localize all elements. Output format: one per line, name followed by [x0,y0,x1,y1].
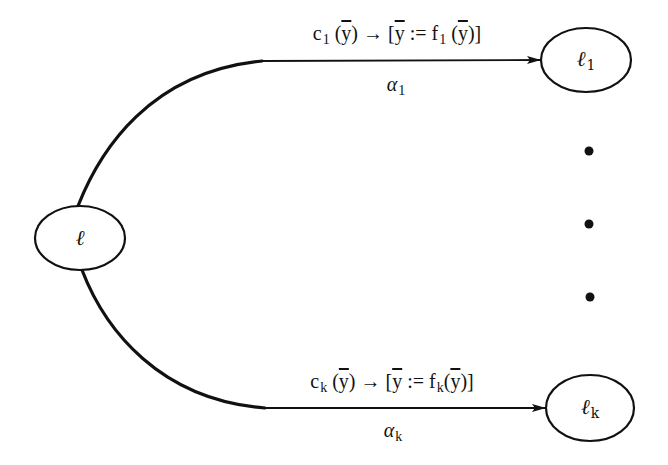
assign-close: ] [467,370,474,392]
assign-op: := [402,370,429,392]
assign-close: ] [475,22,482,44]
action-symbol: α [384,419,395,441]
node-l-symbol: ℓ [76,226,85,250]
guard-condition-subscript: k [320,380,327,395]
assign-arg: y [458,22,468,44]
assign-arg: y [450,370,460,392]
implies-arrow: → [363,22,383,44]
ellipsis-dot [585,220,594,229]
edge-1-guard-label: c1 (y) → [y := f1 (y)] [313,23,481,47]
node-lk-symbol: ℓ [581,395,590,419]
ellipsis-dot [586,293,595,302]
assign-func-subscript: k [437,380,444,395]
assign-var: y [395,22,405,44]
assign-open: [ [386,370,393,392]
assign-op: := [405,22,432,44]
action-symbol: α [387,73,398,95]
node-l1-symbol: ℓ [577,47,586,71]
guard-var: y [339,370,349,392]
action-subscript: 1 [398,83,405,98]
transition-diagram [0,0,668,465]
edge-k-action-label: αk [384,420,403,444]
node-lk-label: ℓk [581,397,599,420]
guard-condition-subscript: 1 [323,32,330,47]
ellipsis-dot [585,147,594,156]
edge-k-guard-label: ck (y) → [y := fk(y)] [310,371,473,395]
node-l-label: ℓ [76,228,85,249]
action-subscript: k [395,429,402,444]
node-l1-subscript: 1 [586,57,595,73]
guard-var: y [341,22,351,44]
assign-func-subscript: 1 [439,32,446,47]
edge-1-arrow [262,60,540,61]
guard-condition: c [313,22,322,44]
edge-k-curve [82,270,265,408]
edge-1-curve [78,61,262,206]
assign-var: y [392,370,402,392]
guard-condition: c [310,370,319,392]
node-lk-subscript: k [591,405,599,421]
implies-arrow: → [361,370,381,392]
assign-func: f [429,370,436,392]
assign-func: f [432,22,439,44]
edge-1-action-label: α1 [387,74,406,98]
node-l1-label: ℓ1 [577,49,596,72]
assign-open: [ [388,22,395,44]
